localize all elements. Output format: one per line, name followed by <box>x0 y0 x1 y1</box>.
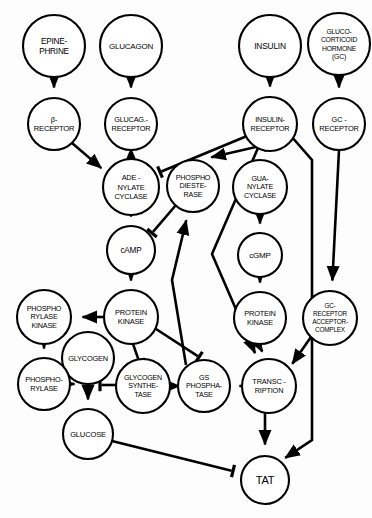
edge-glucose-to-tat <box>112 441 234 477</box>
node-glycogen-synthetase[interactable]: GLYCOGENSYNTHE-TASE <box>116 359 170 413</box>
node-adenylate-cyclase[interactable]: ADE -NYLATECYCLASE <box>103 159 159 215</box>
node-cgmp[interactable]: cGMP <box>238 233 282 277</box>
edge-gc-receptor-to-gc-receptor-acceptor-complex <box>332 150 339 281</box>
node-glucagon-receptor[interactable]: GLUCAG.-RECEPTOR <box>105 98 157 150</box>
pathway-diagram: EPINE-PHRINEGLUCAGONINSULINGLUCO-CORTICO… <box>0 0 372 518</box>
node-label-glucose: GLUCOSE <box>70 430 106 439</box>
node-insulin-receptor[interactable]: INSULIN-RECEPTOR <box>243 97 297 151</box>
node-gc-receptor[interactable]: GC -RECEPTOR <box>313 98 365 150</box>
node-label-glycogen: GLYCOGEN <box>68 354 108 363</box>
edge-phosphodiesterase-to-camp <box>147 205 176 237</box>
node-phosphorylase-kinase[interactable]: PHOSPHORYLASEKINASE <box>17 290 71 344</box>
node-protein-kinase-g[interactable]: PROTEINKINASE <box>234 292 286 344</box>
node-glucose[interactable]: GLUCOSE <box>63 409 113 459</box>
node-layer: EPINE-PHRINEGLUCAGONINSULINGLUCO-CORTICO… <box>17 13 370 504</box>
node-tat[interactable]: TAT <box>241 456 289 504</box>
edge-insulin-receptor-to-tat <box>285 136 312 458</box>
edge-protein-kinase-g-to-transcription <box>258 344 262 351</box>
node-label-phosphorylase: PHOSPHO-RYLASE <box>25 375 63 393</box>
node-gc-receptor-acceptor-complex[interactable]: GC-RECEPTORACCEPTOR-COMPLEX <box>303 291 357 345</box>
node-beta-receptor[interactable]: β-RECEPTOR <box>28 98 80 150</box>
node-label-tat: TAT <box>256 474 275 486</box>
node-phosphorylase[interactable]: PHOSPHO-RYLASE <box>18 358 70 410</box>
node-camp[interactable]: cAMP <box>107 226 155 274</box>
node-label-camp: cAMP <box>120 246 142 255</box>
node-label-protein-kinase-g: PROTEINKINASE <box>244 309 275 327</box>
edge-beta-receptor-to-adenylate-cyclase <box>72 143 101 168</box>
node-label-transcription: TRANSC -RIPTION <box>252 377 286 395</box>
node-protein-kinase-a[interactable]: PROTEINKINASE <box>104 290 158 344</box>
node-label-glucagon-receptor: GLUCAG.-RECEPTOR <box>112 115 151 133</box>
edge-protein-kinase-a-to-gs-phosphatase <box>156 329 202 362</box>
node-label-epinephrine: EPINE-PHRINE <box>39 37 69 56</box>
node-epinephrine[interactable]: EPINE-PHRINE <box>23 15 85 77</box>
node-label-protein-kinase-a: PROTEINKINASE <box>115 308 147 326</box>
node-insulin[interactable]: INSULIN <box>239 15 301 77</box>
node-glucagon[interactable]: GLUCAGON <box>100 15 162 77</box>
node-label-glucagon: GLUCAGON <box>109 42 154 51</box>
node-guanylate-cyclase[interactable]: GUA-NYLATECYCLASE <box>233 160 287 214</box>
edge-gc-receptor-acceptor-complex-to-transcription <box>292 337 311 364</box>
node-phosphodiesterase[interactable]: PHOSPHODIESTE-RASE <box>167 160 219 212</box>
node-label-insulin: INSULIN <box>254 41 286 51</box>
pathway-svg: EPINE-PHRINEGLUCAGONINSULINGLUCO-CORTICO… <box>0 0 372 518</box>
node-gc-hormone[interactable]: GLUCO-CORTICOIDHORMONE(GC) <box>308 13 370 75</box>
node-gs-phosphatase[interactable]: GSPHOSPHA-TASE <box>178 360 230 412</box>
node-label-cgmp: cGMP <box>249 251 270 260</box>
node-transcription[interactable]: TRANSC -RIPTION <box>242 359 296 413</box>
node-label-insulin-receptor: INSULIN-RECEPTOR <box>251 115 290 133</box>
